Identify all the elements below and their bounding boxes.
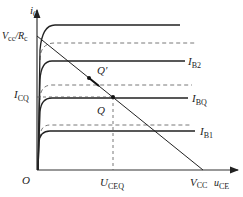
q-prime-point [87, 76, 91, 80]
transistor-output-characteristics-diagram: iC uCE O Vcc/Rc ICQ UCEQ VCC Q Q′ IB2 IB… [0, 0, 243, 197]
dc-load-line [37, 36, 203, 170]
q-prime-label: Q′ [97, 64, 108, 76]
x-axis-label: uCE [214, 177, 229, 191]
vcc-label: VCC [190, 176, 207, 190]
ib2-label: IB2 [187, 55, 201, 70]
q-label: Q [97, 104, 105, 116]
icq-label: ICQ [13, 88, 29, 103]
vcc-over-rc-label: Vcc/Rc [2, 30, 28, 43]
uceq-label: UCEQ [100, 176, 124, 191]
curve-ib1 [38, 131, 195, 170]
ib1-label: IB1 [199, 125, 213, 140]
curve-ib2 [38, 61, 185, 170]
q-point [111, 95, 115, 99]
ibq-label: IBQ [191, 92, 207, 107]
y-axis-label: iC [30, 4, 38, 19]
origin-label: O [22, 174, 30, 186]
